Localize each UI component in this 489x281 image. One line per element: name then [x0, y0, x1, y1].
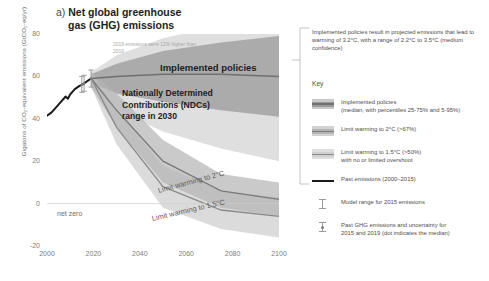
y-tick-60: 60 [20, 72, 40, 79]
legend-item-0: Implemented policies(median, with percen… [312, 98, 488, 114]
x-tick-2020: 2020 [73, 250, 113, 257]
y-axis-label: Gigatons of CO₂-equivalent emissions (Gt… [20, 0, 27, 177]
page-title: a) Net global greenhouse gas (GHG) emiss… [56, 6, 256, 32]
legend-label-line1-5: Past GHG emissions and uncertainty for [341, 222, 446, 228]
legend-item-2: Limit warming to 1.5°C (>50%)with no or … [312, 148, 488, 164]
legend-swatch-error-bar-dot [312, 221, 334, 233]
legend-swatch-band-mid [312, 125, 334, 137]
legend-label-5: Past GHG emissions and uncertainty for20… [341, 221, 450, 237]
legend-item-5: Past GHG emissions and uncertainty for20… [312, 221, 488, 237]
legend-swatch-band-light [312, 148, 334, 160]
legend-swatch-solid-line [312, 175, 334, 187]
legend-label-1: Limit warming to 2°C (>67%) [341, 125, 416, 134]
legend-label-line1-3: Past emissions (2000–2015) [341, 176, 416, 182]
label-emissions-note: 2019 emissions were 12% higher than 2010 [113, 42, 197, 55]
label-net-zero: net zero [57, 210, 82, 217]
legend-label-line1-1: Limit warming to 2°C (>67%) [341, 126, 416, 132]
annotation-bracket [286, 26, 312, 186]
legend-label-line1-4: Model range for 2015 emissions [341, 199, 425, 205]
error-median-dot-2 [90, 77, 93, 80]
label-ndc-line2: Contributions (NDCs) [122, 100, 210, 110]
x-tick-2100: 2100 [259, 250, 299, 257]
implemented-policies-note: Implemented policies result in projected… [312, 28, 488, 52]
legend-label-line1-0: Implemented policies [341, 99, 396, 105]
label-ndc-range: Nationally Determined Contributions (NDC… [122, 88, 213, 123]
legend-label-3: Past emissions (2000–2015) [341, 175, 416, 184]
legend-label-line2-5: 2015 and 2019 (dot indicates the median) [341, 230, 450, 236]
legend-label-line1-2: Limit warming to 1.5°C (>50%) [341, 149, 421, 155]
error-median-dot-1 [83, 83, 86, 86]
x-tick-2080: 2080 [213, 250, 253, 257]
x-tick-2060: 2060 [166, 250, 206, 257]
y-tick-80: 80 [20, 30, 40, 37]
y-tick-40: 40 [20, 115, 40, 122]
label-implemented-policies: Implemented policies [160, 62, 257, 73]
y-tick-0: 0 [20, 200, 40, 207]
legend-label-4: Model range for 2015 emissions [341, 198, 425, 207]
legend-label-0: Implemented policies(median, with percen… [341, 98, 460, 114]
legend-swatch-band-dark [312, 98, 334, 110]
y-tick-20: 20 [20, 157, 40, 164]
legend-swatch-error-bar [312, 198, 334, 210]
x-tick-2040: 2040 [120, 250, 160, 257]
y-tick-neg20: -20 [20, 242, 40, 249]
legend-label-line2-2: with no or limited overshoot [341, 157, 413, 163]
legend-item-1: Limit warming to 2°C (>67%) [312, 125, 488, 137]
legend-item-3: Past emissions (2000–2015) [312, 175, 488, 187]
legend-item-4: Model range for 2015 emissions [312, 198, 488, 210]
label-ndc-line3: range in 2030 [122, 111, 177, 121]
x-tick-2000: 2000 [27, 250, 67, 257]
legend-list: Implemented policies(median, with percen… [312, 98, 488, 238]
key-heading: Key [312, 80, 488, 87]
legend-label-2: Limit warming to 1.5°C (>50%)with no or … [341, 148, 421, 164]
right-panel: Implemented policies result in projected… [312, 28, 488, 238]
title-line-1: Net global greenhouse [68, 6, 181, 18]
legend-label-line2-0: (median, with percentiles 25-75% and 5-9… [341, 107, 460, 113]
error-median-dot-0 [81, 84, 84, 87]
panel-marker: a) [56, 6, 65, 18]
label-ndc-line1: Nationally Determined [122, 88, 213, 98]
title-line-2: gas (GHG) emissions [56, 19, 174, 32]
